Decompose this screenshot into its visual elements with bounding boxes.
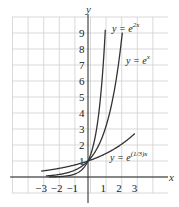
y-tick-label: 3	[79, 123, 85, 135]
y-tick-label: 9	[79, 27, 85, 39]
y-tick-label: 5	[79, 91, 85, 103]
curve-0	[49, 30, 105, 177]
x-tick-label: −2	[51, 182, 63, 194]
exponential-chart: x y −3−2−1123 123456789 y = e2x y = ex y…	[0, 0, 179, 207]
y-tick-label: 6	[79, 75, 85, 87]
x-tick-label: 1	[101, 182, 107, 194]
y-tick-label: 7	[79, 59, 85, 71]
label-e2x: y = e2x	[111, 21, 140, 34]
x-tick-label: 2	[116, 182, 122, 194]
label-ex: y = ex	[125, 53, 151, 66]
x-tick-label: −1	[66, 182, 78, 194]
y-tick-labels: 123456789	[79, 27, 85, 167]
x-axis-label: x	[168, 171, 174, 183]
y-tick-label: 2	[79, 139, 85, 151]
y-tick-label: 4	[79, 107, 85, 119]
x-tick-label: −3	[35, 182, 47, 194]
y-tick-label: 8	[79, 43, 85, 55]
axes	[10, 14, 168, 203]
x-tick-labels: −3−2−1123	[35, 182, 138, 194]
grid	[12, 17, 168, 193]
x-tick-label: 3	[132, 182, 138, 194]
y-axis-label: y	[85, 3, 91, 15]
